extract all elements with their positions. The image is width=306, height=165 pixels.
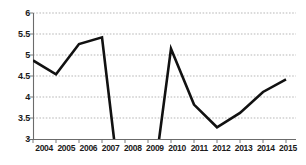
series-line-segment-2 bbox=[158, 49, 286, 150]
x-tick-label-2013: 2013 bbox=[233, 143, 255, 159]
x-tick-label-2014: 2014 bbox=[255, 143, 277, 159]
x-tick-label-2006: 2006 bbox=[77, 143, 99, 159]
x-axis-tick-labels: 2004 2005 2006 2007 2008 2009 2010 2011 … bbox=[33, 143, 299, 159]
x-tick-label-2005: 2005 bbox=[55, 143, 77, 159]
x-tick-label-2004: 2004 bbox=[33, 143, 55, 159]
data-series-group bbox=[33, 37, 286, 150]
x-tick-label-2015: 2015 bbox=[277, 143, 299, 159]
y-axis-ticks bbox=[30, 13, 33, 118]
x-tick-label-2010: 2010 bbox=[166, 143, 188, 159]
x-tick-label-2007: 2007 bbox=[100, 143, 122, 159]
x-tick-label-2011: 2011 bbox=[188, 143, 210, 159]
x-tick-label-2008: 2008 bbox=[122, 143, 144, 159]
series-line-segment-1 bbox=[33, 37, 115, 150]
plot-area bbox=[0, 0, 306, 165]
x-tick-label-2012: 2012 bbox=[210, 143, 232, 159]
line-chart: 6 5.5 5 4.5 4 3.5 3 bbox=[0, 0, 306, 165]
x-tick-label-2009: 2009 bbox=[144, 143, 166, 159]
